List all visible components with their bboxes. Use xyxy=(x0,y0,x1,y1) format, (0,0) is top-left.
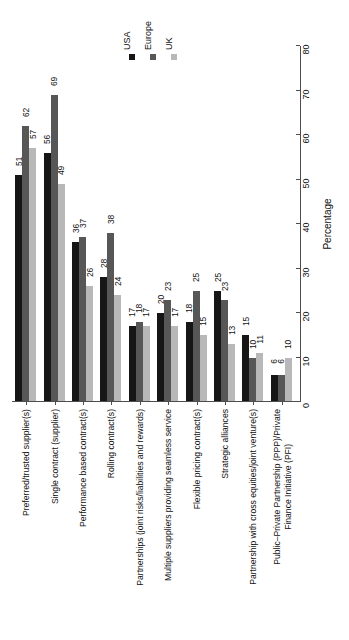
category-tick xyxy=(140,401,141,405)
value-axis-title: Percentage xyxy=(322,198,333,249)
bar: 49 xyxy=(58,46,65,402)
bar-group: 252313 xyxy=(214,46,235,402)
bar-rect xyxy=(200,335,207,402)
bar: 25 xyxy=(193,46,200,402)
bar: 18 xyxy=(186,46,193,402)
bar: 20 xyxy=(157,46,164,402)
value-tick xyxy=(296,179,300,180)
bar-rect xyxy=(44,153,51,402)
bar-rect xyxy=(278,375,285,402)
value-tick xyxy=(296,401,300,402)
bar-group: 363726 xyxy=(72,46,93,402)
category-label: Partnerships (joint risks/liabilities an… xyxy=(135,409,146,586)
bar-group: 516257 xyxy=(15,46,36,402)
bar-value-label: 11 xyxy=(255,335,264,343)
bar-rect xyxy=(86,286,93,402)
bar-value-label: 26 xyxy=(85,268,94,277)
bar: 10 xyxy=(249,46,256,402)
bar: 17 xyxy=(171,46,178,402)
bar: 6 xyxy=(271,46,278,402)
bar-rect xyxy=(221,300,228,402)
bar: 37 xyxy=(79,46,86,402)
category-label: Single contract (supplier) xyxy=(49,409,60,504)
value-tick-label: 60 xyxy=(302,133,311,143)
bar: 17 xyxy=(129,46,136,402)
category-tick xyxy=(55,401,56,405)
bar: 23 xyxy=(221,46,228,402)
value-tick-label: 70 xyxy=(302,89,311,99)
bar-value-label: 17 xyxy=(142,308,151,317)
bar-group: 283824 xyxy=(100,46,121,402)
bar: 62 xyxy=(22,46,29,402)
category-label: Strategic alliances xyxy=(220,409,231,479)
value-tick xyxy=(296,268,300,269)
category-label: Public–Private Partnership (PPP)/Private… xyxy=(271,409,292,565)
bar-value-label: 13 xyxy=(227,326,236,335)
bar: 24 xyxy=(114,46,121,402)
category-tick xyxy=(26,401,27,405)
bar: 18 xyxy=(136,46,143,402)
bar: 38 xyxy=(107,46,114,402)
value-tick-label: 10 xyxy=(302,356,311,366)
value-tick-label: 0 xyxy=(302,403,311,408)
bar: 11 xyxy=(256,46,263,402)
bar-rect xyxy=(129,326,136,402)
bar-rect xyxy=(249,358,256,403)
bar-rect xyxy=(256,353,263,402)
bar: 13 xyxy=(228,46,235,402)
bar: 25 xyxy=(214,46,221,402)
category-label: Performance based contract(s) xyxy=(78,409,89,527)
value-tick-label: 20 xyxy=(302,311,311,321)
category-tick xyxy=(83,401,84,405)
bar-group: 171817 xyxy=(129,46,150,402)
bar-rect xyxy=(171,326,178,402)
value-tick-label: 50 xyxy=(302,178,311,188)
bar-rect xyxy=(143,326,150,402)
bar-group: 151011 xyxy=(242,46,263,402)
bar: 69 xyxy=(51,46,58,402)
bar-rect xyxy=(22,126,29,402)
bar-chart: USAEuropeUK 5162575669493637262838241718… xyxy=(0,0,349,640)
category-tick xyxy=(168,401,169,405)
value-tick-label: 40 xyxy=(302,222,311,232)
bar-group: 6610 xyxy=(271,46,292,402)
category-tick xyxy=(197,401,198,405)
value-tick xyxy=(296,223,300,224)
category-label-line: Finance Initiative (PFI) xyxy=(282,409,293,565)
category-tick xyxy=(253,401,254,405)
bar-rect xyxy=(214,291,221,402)
bar-rect xyxy=(107,233,114,402)
bar: 57 xyxy=(29,46,36,402)
bar-group: 566949 xyxy=(44,46,65,402)
bar-value-label: 57 xyxy=(28,130,37,139)
bar: 17 xyxy=(143,46,150,402)
bar: 15 xyxy=(200,46,207,402)
bar-rect xyxy=(228,344,235,402)
bar-rect xyxy=(157,313,164,402)
bar: 23 xyxy=(164,46,171,402)
bar-rect xyxy=(136,322,143,402)
bar-value-label: 15 xyxy=(199,317,208,326)
bar-rect xyxy=(79,237,86,402)
bar-value-label: 49 xyxy=(57,166,66,175)
bar: 51 xyxy=(15,46,22,402)
category-label: Rolling contract(s) xyxy=(106,409,117,478)
bar-value-label: 17 xyxy=(170,308,179,317)
bar-rect xyxy=(15,175,22,402)
category-tick xyxy=(225,401,226,405)
bar: 56 xyxy=(44,46,51,402)
value-tick-label: 80 xyxy=(302,44,311,54)
bar-rect xyxy=(186,322,193,402)
category-label: Preferred/trusted supplier(s) xyxy=(21,409,32,516)
value-tick xyxy=(296,90,300,91)
value-tick xyxy=(296,312,300,313)
value-tick xyxy=(296,357,300,358)
category-label: Partnership with cross equities/joint ve… xyxy=(248,409,259,585)
bar-value-label: 10 xyxy=(284,339,293,348)
value-tick xyxy=(296,45,300,46)
bar-group: 182515 xyxy=(186,46,207,402)
plot-area: 5162575669493637262838241718172023171825… xyxy=(12,46,296,402)
value-tick xyxy=(296,134,300,135)
bar-rect xyxy=(100,277,107,402)
bar-rect xyxy=(285,358,292,403)
